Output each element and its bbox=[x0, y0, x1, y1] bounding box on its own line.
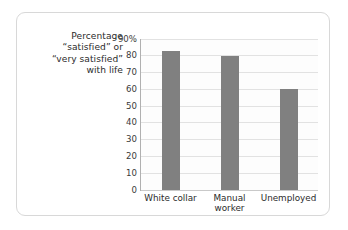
y-tick-label: 20 bbox=[97, 152, 137, 161]
y-axis-tick-labels: 0102030405060708090% bbox=[93, 39, 137, 190]
bar-unemployed bbox=[280, 89, 298, 190]
category-label-manual-worker: Manual worker bbox=[200, 193, 259, 214]
figure-card: Percentage “satisfied” or “very satisfie… bbox=[16, 12, 330, 216]
bar-manual-worker bbox=[221, 56, 239, 190]
y-tick-label: 40 bbox=[97, 118, 137, 127]
x-axis-line bbox=[141, 190, 318, 191]
x-axis-category-labels: White collarManual workerUnemployed bbox=[141, 193, 318, 225]
y-tick-label: 80 bbox=[97, 51, 137, 60]
y-tick-label: 0 bbox=[97, 186, 137, 195]
y-tick-label: 60 bbox=[97, 85, 137, 94]
bar-white-collar bbox=[162, 51, 180, 190]
plot-area bbox=[141, 39, 318, 190]
y-tick-label: 70 bbox=[97, 68, 137, 77]
y-tick-label: 30 bbox=[97, 135, 137, 144]
y-tick-label: 90% bbox=[97, 35, 137, 44]
gridline bbox=[141, 39, 318, 40]
category-label-unemployed: Unemployed bbox=[259, 193, 318, 203]
y-tick-label: 10 bbox=[97, 169, 137, 178]
y-tick-label: 50 bbox=[97, 102, 137, 111]
plot-inner bbox=[141, 39, 318, 190]
category-label-white-collar: White collar bbox=[141, 193, 200, 203]
